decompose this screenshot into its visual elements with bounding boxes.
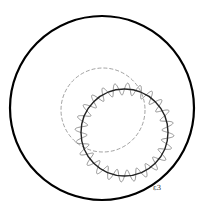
inner-circle xyxy=(81,89,168,176)
curve-label: ε3 xyxy=(153,184,161,192)
diagram-canvas: ε3 xyxy=(0,0,204,209)
wavy-curve xyxy=(75,83,174,182)
dashed-circle xyxy=(61,68,145,152)
outer-circle xyxy=(10,16,194,200)
